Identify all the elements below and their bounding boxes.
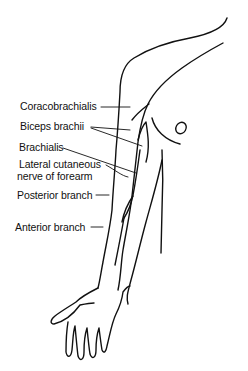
label-posterior-branch: Posterior branch <box>17 190 92 201</box>
arm-inner-contour <box>118 43 223 290</box>
anatomy-diagram: Coracobrachialis Biceps brachii Brachial… <box>0 0 248 371</box>
leader-biceps-1 <box>91 127 130 130</box>
label-lateral-cutaneous-2: nerve of forearm <box>17 171 92 182</box>
label-biceps-brachii: Biceps brachii <box>20 121 84 132</box>
nipple-shape <box>174 120 189 135</box>
label-brachialis: Brachialis <box>19 142 64 153</box>
coracobrachialis-line <box>132 104 149 120</box>
label-coracobrachialis: Coracobrachialis <box>20 101 97 112</box>
thumb-contour <box>51 288 98 324</box>
forearm-contour <box>127 160 162 304</box>
label-lateral-cutaneous-1: Lateral cutaneous <box>19 159 101 170</box>
label-anterior-branch: Anterior branch <box>15 222 85 233</box>
arm-illustration <box>0 0 248 371</box>
hand-fingers <box>66 286 130 359</box>
